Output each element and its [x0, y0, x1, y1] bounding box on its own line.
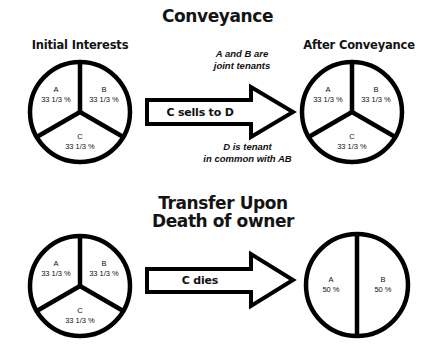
slice-label-b-value: 33 1/3 % [361, 95, 391, 104]
annotation-joint-tenants: A and B are joint tenants [186, 48, 298, 71]
slice-label-a-value: 50 % [322, 285, 339, 294]
slice-label-b-value: 50 % [374, 285, 391, 294]
slice-label-c-value: 33 1/3 % [65, 316, 95, 325]
pie-chart-after-conveyance: A 33 1/3 % B 33 1/3 % C 33 1/3 % [296, 56, 408, 168]
slice-label-b-name: B [101, 85, 106, 94]
slice-label-c-name: C [77, 306, 83, 315]
slice-label-a-name: A [53, 259, 58, 268]
pie-chart-transfer-initial: A 33 1/3 % B 33 1/3 % C 33 1/3 % [24, 230, 136, 342]
pie-chart-initial-interests: A 33 1/3 % B 33 1/3 % C 33 1/3 % [24, 56, 136, 168]
arrow-label-c-dies: C dies [150, 274, 250, 287]
slice-label-c-name: C [77, 132, 83, 141]
pie-chart-transfer-after: A 50 % B 50 % [300, 228, 414, 342]
annotation-tenant-in-common: D is tenant in common with AB [180, 141, 315, 164]
slice-label-a-name: A [328, 275, 333, 284]
slice-label-c-value: 33 1/3 % [65, 142, 95, 151]
slice-label-b-name: B [373, 85, 378, 94]
slice-label-b-name: B [380, 275, 385, 284]
slice-label-a-value: 33 1/3 % [41, 95, 71, 104]
slice-label-a-name: A [325, 85, 330, 94]
slice-label-c-name: C [349, 132, 355, 141]
section-title-transfer: Transfer Upon Death of owner [133, 194, 313, 230]
heading-after-conveyance: After Conveyance [288, 38, 430, 52]
slice-label-b-name: B [101, 259, 106, 268]
slice-label-a-value: 33 1/3 % [41, 269, 71, 278]
slice-label-a-name: A [53, 85, 58, 94]
heading-initial-interests: Initial Interests [10, 38, 150, 52]
slice-label-c-value: 33 1/3 % [337, 142, 367, 151]
diagram-canvas: Conveyance Initial Interests After Conve… [0, 0, 435, 357]
slice-label-b-value: 33 1/3 % [89, 269, 119, 278]
slice-label-b-value: 33 1/3 % [89, 95, 119, 104]
arrow-label-c-sells-to-d: C sells to D [150, 106, 250, 119]
slice-label-a-value: 33 1/3 % [313, 95, 343, 104]
section-title-conveyance: Conveyance [130, 7, 305, 25]
